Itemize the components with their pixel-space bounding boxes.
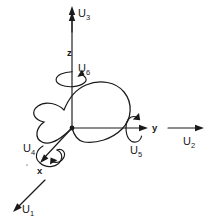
dof-u2-arrowhead (195, 125, 204, 131)
axis-x-arrowhead (40, 154, 48, 163)
dof-label-u1: U1 (22, 203, 34, 218)
dof-u5-rotation-arc: U5 (126, 113, 142, 159)
axis-label-y: y (152, 122, 158, 133)
dof-u6-rotation-arc: U6 (56, 62, 90, 87)
axis-z: z (67, 12, 75, 128)
axis-y: y (72, 122, 158, 133)
axis-label-x: x (37, 165, 43, 176)
rigid-body-outline (34, 82, 130, 143)
dof-label-u2: U2 (183, 135, 195, 150)
rigid-body-dof-diagram: z y x U3 (0, 0, 211, 220)
origin-point (70, 126, 75, 131)
dof-u3-arrowhead (69, 6, 75, 15)
dof-label-u4: U4 (23, 142, 35, 157)
dof-u3-translation-arrow: U3 (69, 6, 90, 32)
dof-label-u5: U5 (130, 144, 142, 159)
dof-u1-translation-arrow: U1 (13, 180, 45, 218)
axis-label-z: z (67, 47, 72, 58)
axis-y-arrowhead (139, 125, 148, 131)
dof-label-u3: U3 (78, 7, 90, 22)
scan-speck (26, 164, 28, 166)
axis-x: x (37, 128, 72, 176)
dof-u4-arrowhead (50, 157, 57, 164)
dof-u2-translation-arrow: U2 (168, 125, 204, 150)
dof-u4-rotation-arc: U4 (23, 142, 65, 167)
